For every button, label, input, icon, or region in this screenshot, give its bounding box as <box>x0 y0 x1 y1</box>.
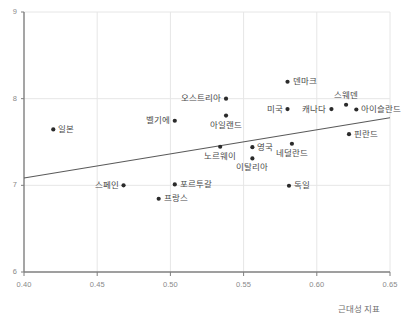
data-point-label: 일본 <box>58 125 128 134</box>
data-point <box>287 184 291 188</box>
data-point <box>121 183 125 187</box>
data-point <box>250 145 254 149</box>
data-point <box>224 113 228 117</box>
y-tick-label: 6 <box>0 267 17 276</box>
data-point <box>344 103 348 107</box>
data-point-label: 독일 <box>294 181 364 190</box>
axis-lines <box>24 12 390 272</box>
x-tick-label: 0.40 <box>4 280 44 289</box>
x-tick-label: 0.50 <box>150 280 190 289</box>
tick-marks <box>21 12 390 276</box>
y-tick-label: 8 <box>0 94 17 103</box>
data-point <box>218 145 222 149</box>
data-point-label: 아이슬란드 <box>361 105 405 114</box>
data-point <box>285 80 289 84</box>
data-point-label: 스웨덴 <box>311 91 381 100</box>
data-point <box>354 107 358 111</box>
data-point <box>347 132 351 136</box>
data-point-label: 캐나다 <box>256 105 326 114</box>
data-point <box>157 197 161 201</box>
x-tick-label: 0.55 <box>224 280 264 289</box>
data-point <box>329 107 333 111</box>
y-tick-label: 7 <box>0 180 17 189</box>
data-point-label: 프랑스 <box>164 194 234 203</box>
data-point-label: 스페인 <box>49 181 119 190</box>
data-point <box>173 119 177 123</box>
data-point-label: 덴마크 <box>293 77 363 86</box>
x-tick-label: 0.45 <box>77 280 117 289</box>
x-tick-label: 0.60 <box>297 280 337 289</box>
y-tick-label: 9 <box>0 7 17 16</box>
scatter-chart: 일본벨기에오스트리아아일랜드덴마크미국캐나다스웨덴아이슬란드핀란드네덜란드영국노… <box>0 0 405 319</box>
data-point <box>51 127 55 131</box>
x-tick-label: 0.65 <box>370 280 405 289</box>
data-point-label: 노르웨이 <box>185 152 255 161</box>
data-point-label: 아일랜드 <box>191 121 261 130</box>
data-point-label: 핀란드 <box>354 130 405 139</box>
data-point <box>224 97 228 101</box>
data-point-label: 벨기에 <box>100 116 170 125</box>
x-axis-title: 근대성 지표 <box>338 302 380 314</box>
gridlines <box>24 12 390 272</box>
data-point <box>173 182 177 186</box>
data-point-label: 영국 <box>257 143 327 152</box>
data-point-label: 오스트리아 <box>151 94 221 103</box>
data-point-label: 포르투갈 <box>180 180 250 189</box>
data-point-label: 이탈리아 <box>217 163 287 172</box>
